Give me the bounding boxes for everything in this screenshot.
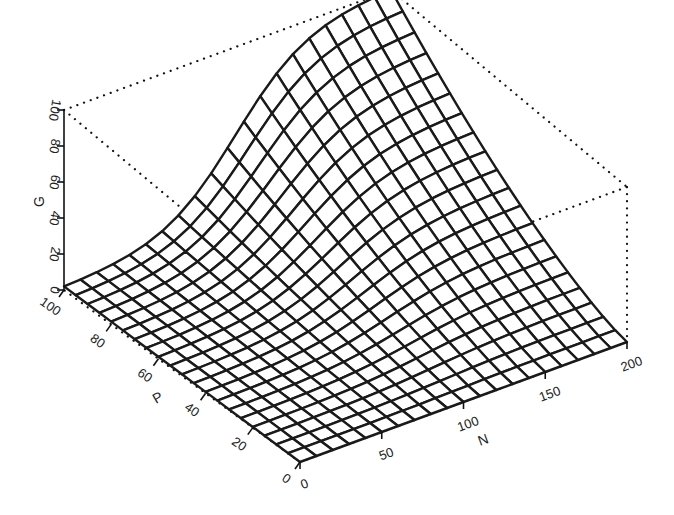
g-tick-label: 40 [46,210,63,227]
p-tick-label: 100 [37,294,63,319]
p-tick-label: 40 [182,399,202,420]
n-axis-label: N [476,430,491,448]
g-axis-label: G [31,196,47,207]
p-axis-label: P [150,388,166,407]
p-tick-label: 0 [279,470,294,486]
p-tick [201,393,206,400]
n-tick-label: 100 [455,413,481,435]
p-tick [248,428,253,435]
g-tick-label: 100 [46,98,65,122]
p-tick-label: 80 [88,330,108,351]
p-tick [106,324,111,331]
surface-plot: 020406080100020406080100050100150200 G P… [0,0,674,515]
p-tick-label: 60 [135,365,155,386]
n-tick-label: 150 [537,383,563,405]
g-tick-label: 80 [46,138,63,155]
p-tick [153,359,158,366]
n-tick-label: 50 [377,444,396,463]
g-tick-label: 60 [46,174,63,191]
p-tick-label: 20 [229,434,249,455]
n-tick-label: 0 [298,475,310,492]
g-tick-label: 20 [46,246,63,263]
n-tick-label: 200 [619,353,645,375]
